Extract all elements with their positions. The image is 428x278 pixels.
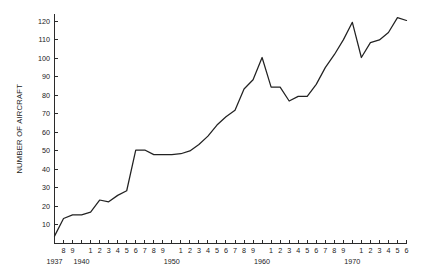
x-tick-label: 2 bbox=[188, 246, 192, 255]
x-tick-label: 2 bbox=[278, 246, 282, 255]
y-axis-title: NUMBER OF AIRCRAFT bbox=[15, 84, 24, 174]
x-tick-label: 6 bbox=[314, 246, 318, 255]
y-tick-label: 50 bbox=[42, 146, 50, 155]
x-tick-label: 7 bbox=[323, 246, 327, 255]
y-tick-label: 110 bbox=[39, 35, 50, 44]
x-tick-label: 1 bbox=[179, 246, 183, 255]
x-tick-label: 5 bbox=[125, 246, 129, 255]
x-axis-decade-label: 1940 bbox=[74, 257, 90, 266]
x-tick-label: 7 bbox=[143, 246, 147, 255]
x-tick-label: 8 bbox=[332, 246, 336, 255]
x-axis-decade-label: 1970 bbox=[344, 257, 360, 266]
x-tick-label: 4 bbox=[116, 246, 120, 255]
y-tick-label: 90 bbox=[42, 72, 50, 81]
y-tick-label: 120 bbox=[38, 17, 50, 26]
x-tick-label: 5 bbox=[305, 246, 309, 255]
x-tick-label: 1 bbox=[269, 246, 273, 255]
x-tick-label: 2 bbox=[368, 246, 372, 255]
x-tick-label: 7 bbox=[233, 246, 237, 255]
x-axis-decade-label: 1960 bbox=[254, 257, 270, 266]
y-tick-label: 20 bbox=[42, 202, 50, 211]
x-tick-label: 3 bbox=[107, 246, 111, 255]
plot-background bbox=[0, 0, 428, 278]
y-tick-label: 80 bbox=[42, 91, 50, 100]
x-tick-label: 9 bbox=[71, 246, 75, 255]
x-tick-label: 6 bbox=[224, 246, 228, 255]
x-tick-label: 4 bbox=[206, 246, 210, 255]
x-tick-label: 3 bbox=[377, 246, 381, 255]
x-tick-label: 6 bbox=[405, 246, 409, 255]
x-axis-decade-label: 1950 bbox=[164, 257, 180, 266]
chart-container: 102030405060708090100110120 891234567891… bbox=[0, 0, 428, 278]
y-tick-label: 10 bbox=[42, 220, 50, 229]
x-tick-label: 8 bbox=[152, 246, 156, 255]
y-tick-label: 30 bbox=[42, 183, 50, 192]
x-tick-label: 5 bbox=[395, 246, 399, 255]
x-tick-label: 6 bbox=[134, 246, 138, 255]
y-tick-label: 40 bbox=[42, 165, 50, 174]
x-tick-label: 1 bbox=[89, 246, 93, 255]
x-tick-label: 3 bbox=[197, 246, 201, 255]
x-tick-label: 2 bbox=[98, 246, 102, 255]
x-tick-label: 3 bbox=[287, 246, 291, 255]
x-tick-label: 8 bbox=[242, 246, 246, 255]
y-axis-title-group: NUMBER OF AIRCRAFT bbox=[15, 84, 24, 174]
x-tick-label: 9 bbox=[251, 246, 255, 255]
line-chart: 102030405060708090100110120 891234567891… bbox=[0, 0, 428, 278]
x-tick-label: 4 bbox=[386, 246, 390, 255]
x-tick-label: 9 bbox=[161, 246, 165, 255]
y-tick-label: 60 bbox=[42, 128, 50, 137]
x-axis-decade-label: 1937 bbox=[47, 257, 63, 266]
x-tick-label: 4 bbox=[296, 246, 300, 255]
x-tick-label: 1 bbox=[359, 246, 363, 255]
x-tick-label: 8 bbox=[62, 246, 66, 255]
x-tick-label: 9 bbox=[341, 246, 345, 255]
y-tick-label: 100 bbox=[38, 54, 50, 63]
y-tick-label: 70 bbox=[42, 109, 50, 118]
x-tick-label: 5 bbox=[215, 246, 219, 255]
